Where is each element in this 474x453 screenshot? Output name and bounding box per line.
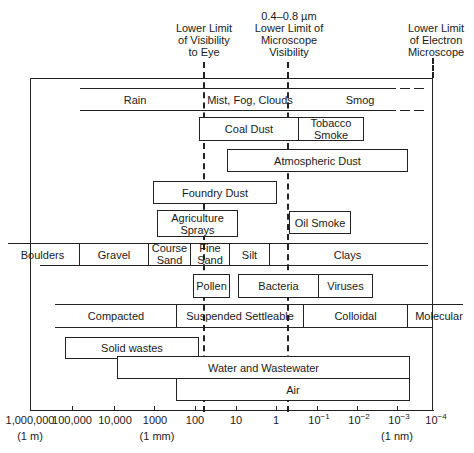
oil-smoke-box: Oil Smoke (289, 211, 351, 234)
state-band-bottom (55, 327, 433, 328)
x-sublabel-1mm: (1 mm) (140, 430, 175, 442)
tick-text: 10,000 (98, 414, 132, 426)
rain-label: Rain (110, 89, 160, 110)
water-wastewater-box: Water and Wastewater (117, 356, 410, 379)
soil-band-bottom (40, 265, 428, 266)
x-tick-label: 100,000 (52, 414, 92, 426)
rain-band-bottom-dash2 (414, 110, 424, 111)
x-tick-label: 10−1 (308, 412, 329, 426)
x-sublabel-1nm: (1 nm) (381, 430, 413, 442)
coal-dust-label: Coal Dust (225, 123, 273, 135)
x-tick-label: 10 (230, 414, 242, 426)
bacteria-label: Bacteria (258, 280, 298, 292)
compacted-label: Compacted (56, 305, 176, 327)
boulders-label: Boulders (6, 244, 79, 265)
tick-text: 100 (186, 414, 204, 426)
eye-limit-line1: Lower Limit (168, 22, 240, 34)
microscope-limit-line1: 0.4–0.8 µm (244, 10, 334, 22)
molecular-label: Molecular (408, 305, 470, 327)
x-tick (317, 406, 318, 410)
smoke-label: Smoke (314, 129, 348, 141)
x-tick (397, 406, 398, 410)
tick-text: 1 (273, 414, 279, 426)
viruses-box: Viruses (318, 274, 373, 298)
x-tick (154, 406, 155, 410)
tick-exponent: −3 (401, 412, 410, 421)
x-tick-label: 100 (186, 414, 204, 426)
eye-limit-label: Lower Limit of Visibility to Eye (168, 22, 240, 58)
suspended-settleable-label: Suspended Settleable (177, 305, 303, 327)
x-tick-label: 1000 (143, 414, 167, 426)
microscope-limit-label: 0.4–0.8 µm Lower Limit of Microscope Vis… (244, 10, 334, 58)
x-tick (114, 406, 115, 410)
tick-text: 10 (230, 414, 242, 426)
electron-limit-line3: Microscope (398, 46, 474, 58)
x-tick (236, 406, 237, 410)
microscope-limit-line4: Visibility (244, 46, 334, 58)
tick-text: 10 (388, 414, 400, 426)
solid-wastes-label: Solid wastes (101, 342, 163, 354)
sprays-label: Sprays (180, 224, 214, 236)
pollen-box: Pollen (193, 274, 230, 298)
coal-dust-box: Coal Dust (199, 117, 299, 141)
tick-text: 1000 (143, 414, 167, 426)
pollen-label: Pollen (196, 280, 227, 292)
electron-limit-label: Lower Limit of Electron Microscope (398, 22, 474, 58)
rain-band-top-dash2 (414, 88, 424, 89)
oil-smoke-label: Oil Smoke (295, 217, 346, 229)
electron-limit-line2: of Electron (398, 34, 474, 46)
x-tick-label: 10−3 (388, 412, 409, 426)
bacteria-box: Bacteria (238, 274, 319, 298)
rain-band-top-dash (400, 88, 410, 89)
water-wastewater-label: Water and Wastewater (208, 362, 319, 374)
colloidal-label: Colloidal (304, 305, 407, 327)
silt-label: Silt (230, 244, 269, 265)
x-tick (357, 406, 358, 410)
clays-label: Clays (270, 244, 425, 265)
tick-text: 1,000,000 (6, 414, 55, 426)
tobacco-label: Tobacco (311, 117, 352, 129)
air-box: Air (176, 378, 410, 401)
x-tick-label: 10−2 (348, 412, 369, 426)
smog-label: Smog (330, 89, 390, 110)
air-label: Air (286, 384, 299, 396)
tick-text: 10 (425, 414, 437, 426)
coarse-sand-sub: Sand (157, 254, 183, 266)
agriculture-label: Agriculture (171, 212, 224, 224)
x-tick (195, 406, 196, 410)
tick-exponent: −1 (321, 412, 330, 421)
x-axis-line (30, 410, 434, 411)
microscope-limit-line3: Microscope (244, 34, 334, 46)
tick-exponent: −2 (361, 412, 370, 421)
eye-limit-line2: of Visibility (168, 34, 240, 46)
coarse-sand-label: Course Sand (149, 243, 190, 265)
x-tick (276, 406, 277, 410)
x-tick (72, 406, 73, 410)
foundry-dust-box: Foundry Dust (153, 181, 277, 204)
x-tick-label: 1,000,000 (6, 414, 55, 426)
tick-text: 100,000 (52, 414, 92, 426)
tick-exponent: −4 (438, 412, 447, 421)
tick-text: 10 (308, 414, 320, 426)
viruses-label: Viruses (327, 280, 363, 292)
gravel-label: Gravel (80, 244, 148, 265)
rain-band-bottom-dash (400, 110, 410, 111)
tobacco-smoke-box: Tobacco Smoke (298, 117, 364, 141)
atmospheric-dust-label: Atmospheric Dust (274, 155, 361, 167)
x-tick-label: 1 (273, 414, 279, 426)
tick-text: 10 (348, 414, 360, 426)
electron-limit-line1: Lower Limit (398, 22, 474, 34)
fine-sand-sub: Sand (197, 254, 223, 266)
x-sublabel-1m: (1 m) (17, 430, 43, 442)
eye-limit-line3: to Eye (168, 46, 240, 58)
agriculture-sprays-box: Agriculture Sprays (157, 210, 238, 237)
mist-fog-clouds-label: Mist, Fog, Clouds (185, 89, 315, 110)
coarse-label: Course (152, 242, 187, 254)
foundry-dust-label: Foundry Dust (182, 187, 248, 199)
atmospheric-dust-box: Atmospheric Dust (227, 149, 408, 172)
x-tick-label: 10−4 (425, 412, 446, 426)
fine-sand-label: Fine Sand (191, 243, 229, 265)
microscope-limit-line2: Lower Limit of (244, 22, 334, 34)
electron-limit-line (432, 58, 434, 78)
x-tick-label: 10,000 (98, 414, 132, 426)
